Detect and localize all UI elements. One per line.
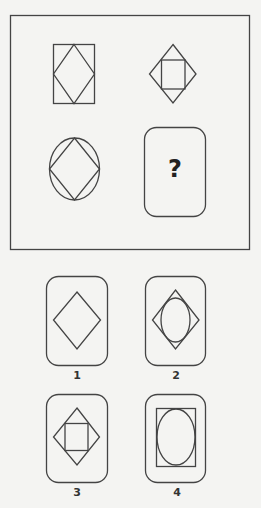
option-1-label: 1: [67, 369, 87, 382]
cell-bottom-left: [50, 138, 100, 200]
diamond-shape: [54, 45, 95, 104]
ellipse-shape: [50, 138, 100, 200]
puzzle-frame: [11, 16, 250, 250]
puzzle-canvas: [0, 0, 261, 508]
option-card[interactable]: [47, 277, 108, 366]
option-1[interactable]: [47, 277, 108, 366]
option-2-label: 2: [166, 369, 186, 382]
square-shape: [162, 60, 186, 89]
cell-top-left: [54, 45, 95, 104]
option-4[interactable]: [146, 395, 206, 483]
ellipse-shape: [161, 298, 190, 342]
option-card[interactable]: [146, 395, 206, 483]
option-2[interactable]: [146, 277, 206, 366]
question-mark: ?: [160, 155, 190, 183]
cell-top-right: [150, 45, 197, 104]
ellipse-shape: [157, 409, 195, 465]
option-4-label: 4: [167, 486, 187, 499]
diamond-shape: [150, 45, 197, 104]
diamond-shape: [153, 290, 200, 349]
rectangle-shape: [54, 45, 95, 104]
diamond-shape: [54, 408, 100, 465]
option-3-label: 3: [67, 486, 87, 499]
square-shape: [65, 424, 88, 451]
diamond-shape: [54, 292, 101, 349]
option-3[interactable]: [47, 395, 108, 483]
